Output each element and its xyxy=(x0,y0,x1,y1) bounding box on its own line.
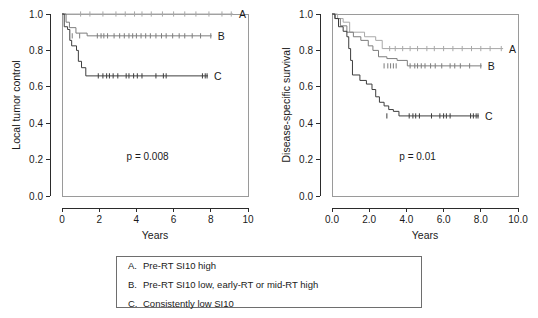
svg-text:0.6: 0.6 xyxy=(29,81,43,92)
svg-text:Disease-specific survival: Disease-specific survival xyxy=(280,48,292,163)
legend-key-a: A. xyxy=(128,261,143,271)
svg-text:0.0: 0.0 xyxy=(325,214,339,225)
annotations-left: p = 0.008 xyxy=(127,151,169,162)
figure-root: 0.00.20.40.60.81.00246810YearsLocal tumo… xyxy=(0,0,538,318)
svg-text:C: C xyxy=(214,70,222,82)
svg-text:Years: Years xyxy=(142,229,168,241)
panel-disease-specific-survival: 0.00.20.40.60.81.00.02.04.06.08.010.0Yea… xyxy=(268,0,538,250)
svg-text:0.2: 0.2 xyxy=(299,154,313,165)
svg-text:Local tumor control: Local tumor control xyxy=(10,60,22,149)
svg-text:Years: Years xyxy=(412,229,438,241)
svg-text:2: 2 xyxy=(96,214,102,225)
svg-text:0.4: 0.4 xyxy=(299,118,313,129)
svg-text:p = 0.008: p = 0.008 xyxy=(127,151,169,162)
svg-text:B: B xyxy=(218,30,225,42)
svg-text:4.0: 4.0 xyxy=(399,214,413,225)
svg-text:0.0: 0.0 xyxy=(299,191,313,202)
legend-text-b: Pre-RT SI10 low, early-RT or mid-RT high xyxy=(143,280,318,290)
svg-text:2.0: 2.0 xyxy=(362,214,376,225)
legend-item-b: B. Pre-RT SI10 low, early-RT or mid-RT h… xyxy=(117,280,421,295)
legend-item-c: C. Consistently low SI10 xyxy=(117,299,421,314)
curves-right: ABC xyxy=(332,14,516,122)
svg-text:B: B xyxy=(488,60,495,72)
curves-left: ABC xyxy=(62,8,246,82)
chart-disease-specific-survival: 0.00.20.40.60.81.00.02.04.06.08.010.0Yea… xyxy=(268,0,538,250)
legend-text-a: Pre-RT SI10 high xyxy=(143,261,216,271)
annotations-right: p = 0.01 xyxy=(399,151,436,162)
legend-item-a: A. Pre-RT SI10 high xyxy=(117,261,421,276)
legend-box: A. Pre-RT SI10 high B. Pre-RT SI10 low, … xyxy=(116,256,422,308)
svg-text:A: A xyxy=(509,43,516,55)
svg-text:C: C xyxy=(485,110,493,122)
svg-text:0: 0 xyxy=(59,214,65,225)
svg-text:0.8: 0.8 xyxy=(29,45,43,56)
legend-key-b: B. xyxy=(128,280,143,290)
svg-text:p = 0.01: p = 0.01 xyxy=(399,151,436,162)
chart-local-tumor-control: 0.00.20.40.60.81.00246810YearsLocal tumo… xyxy=(0,0,268,250)
svg-text:0.0: 0.0 xyxy=(29,191,43,202)
legend-key-c: C. xyxy=(128,299,143,309)
plot-frame-right xyxy=(332,14,518,196)
axes-left: 0.00.20.40.60.81.00246810YearsLocal tumo… xyxy=(10,9,254,242)
svg-text:8.0: 8.0 xyxy=(474,214,488,225)
svg-text:1.0: 1.0 xyxy=(299,9,313,20)
legend-text-c: Consistently low SI10 xyxy=(143,299,234,309)
panel-local-tumor-control: 0.00.20.40.60.81.00246810YearsLocal tumo… xyxy=(0,0,268,250)
svg-text:1.0: 1.0 xyxy=(29,9,43,20)
svg-text:0.8: 0.8 xyxy=(299,45,313,56)
svg-text:0.2: 0.2 xyxy=(29,154,43,165)
svg-text:6: 6 xyxy=(171,214,177,225)
svg-text:10: 10 xyxy=(242,214,254,225)
svg-text:A: A xyxy=(239,8,246,20)
svg-text:8: 8 xyxy=(208,214,214,225)
axes-right: 0.00.20.40.60.81.00.02.04.06.08.010.0Yea… xyxy=(280,9,528,242)
svg-text:0.4: 0.4 xyxy=(29,118,43,129)
svg-text:0.6: 0.6 xyxy=(299,81,313,92)
svg-text:10.0: 10.0 xyxy=(508,214,528,225)
svg-text:6.0: 6.0 xyxy=(437,214,451,225)
svg-text:4: 4 xyxy=(134,214,140,225)
